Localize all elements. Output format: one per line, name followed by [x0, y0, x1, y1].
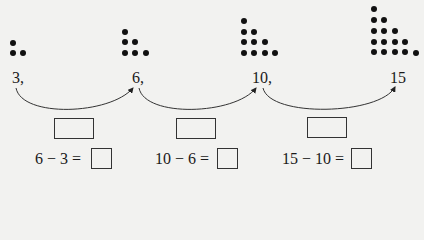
answer-box-3[interactable] — [351, 148, 372, 169]
arc-arrow-2 — [139, 88, 256, 109]
equation-2: 10 − 6 = — [155, 151, 209, 167]
arc-arrow-3 — [263, 87, 395, 109]
equation-1: 6 − 3 = — [35, 151, 81, 167]
difference-box-2[interactable] — [176, 118, 216, 139]
answer-box-1[interactable] — [91, 148, 112, 169]
difference-box-3[interactable] — [307, 117, 347, 138]
equation-3: 15 − 10 = — [282, 151, 344, 167]
answer-box-2[interactable] — [217, 148, 238, 169]
difference-box-1[interactable] — [54, 118, 94, 139]
arc-arrow-1 — [16, 88, 133, 109]
